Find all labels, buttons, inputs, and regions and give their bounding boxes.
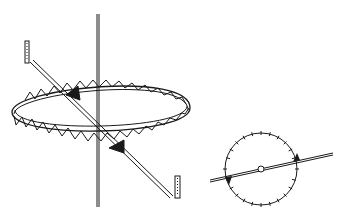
toothed-ring-back bbox=[12, 86, 190, 114]
toothed-ring-assembly bbox=[12, 14, 190, 207]
end-bracket-left bbox=[25, 41, 29, 63]
vertical-axis bbox=[97, 14, 99, 207]
vane-left bbox=[225, 176, 232, 185]
diagram-canvas bbox=[0, 0, 345, 217]
end-bracket-right bbox=[175, 176, 180, 198]
vane-upper bbox=[66, 86, 80, 100]
vane-lower bbox=[109, 140, 124, 153]
top-view-dial bbox=[210, 131, 333, 207]
center-pivot bbox=[258, 166, 264, 172]
toothed-ring-front bbox=[12, 106, 190, 131]
